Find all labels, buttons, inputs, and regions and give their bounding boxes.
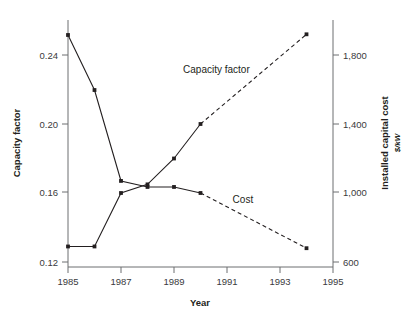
chart-canvas: 0.24 0.20 0.16 0.12 1,800 1,400 1,000 60… xyxy=(0,0,416,335)
data-point-marker xyxy=(93,245,97,249)
left-tick-label-016: 0.16 xyxy=(40,187,59,198)
x-axis-ticks: 1985 1987 1989 1991 1993 1995 xyxy=(57,267,343,287)
data-point-marker xyxy=(172,185,176,189)
right-axis-title: Installed capital cost xyxy=(379,95,390,189)
right-tick-label-1800: 1,800 xyxy=(343,50,367,61)
right-tick-label-1400: 1,400 xyxy=(343,119,367,130)
x-axis-title: Year xyxy=(190,297,210,308)
x-tick-label-1985: 1985 xyxy=(57,276,78,287)
cost-series-label: Cost xyxy=(233,194,254,205)
data-point-marker xyxy=(66,33,70,37)
data-point-marker xyxy=(66,245,70,249)
data-point-marker xyxy=(172,157,176,161)
x-tick-label-1991: 1991 xyxy=(216,276,237,287)
x-tick-label-1987: 1987 xyxy=(110,276,131,287)
data-point-marker xyxy=(199,191,203,195)
capacity-factor-solid-line xyxy=(68,124,201,246)
right-axis-subtitle: $/kW xyxy=(393,132,402,153)
cost-solid-line xyxy=(68,35,201,193)
left-tick-label-020: 0.20 xyxy=(40,119,59,130)
cost-dashed-line xyxy=(201,193,307,248)
right-tick-label-600: 600 xyxy=(343,257,359,268)
left-tick-label-012: 0.12 xyxy=(40,257,59,268)
data-point-marker xyxy=(305,32,309,36)
x-tick-label-1993: 1993 xyxy=(269,276,290,287)
x-tick-label-1995: 1995 xyxy=(322,276,343,287)
capacity-factor-dashed-line xyxy=(201,34,307,124)
data-point-marker xyxy=(119,191,123,195)
data-point-marker xyxy=(119,179,123,183)
capacity-factor-cost-chart: 0.24 0.20 0.16 0.12 1,800 1,400 1,000 60… xyxy=(0,0,416,335)
left-tick-label-024: 0.24 xyxy=(40,50,59,61)
right-axis-ticks: 1,800 1,400 1,000 600 xyxy=(333,50,367,268)
x-tick-label-1989: 1989 xyxy=(163,276,184,287)
data-point-marker xyxy=(199,122,203,126)
left-axis-ticks: 0.24 0.20 0.16 0.12 xyxy=(40,50,69,268)
data-point-marker xyxy=(305,246,309,250)
capacity-factor-series-label: Capacity factor xyxy=(183,64,250,75)
data-point-marker xyxy=(146,185,150,189)
left-axis-title: Capacity factor xyxy=(11,108,22,177)
right-tick-label-1000: 1,000 xyxy=(343,187,367,198)
data-point-marker xyxy=(93,88,97,92)
